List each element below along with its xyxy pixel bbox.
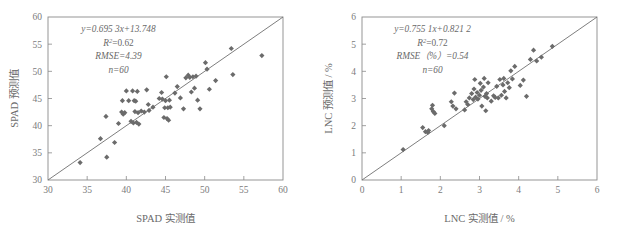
y-tick-label: 55 [33, 40, 43, 50]
data-point [401, 147, 406, 152]
data-point [508, 68, 513, 73]
x-tick-label: 1 [399, 185, 404, 195]
annotation-r-squared: R2=0.72 [416, 36, 448, 48]
y-tick-label: 3 [351, 94, 356, 104]
data-point [550, 44, 555, 49]
data-point [112, 140, 117, 145]
y-tick-label: 1 [351, 148, 356, 158]
data-point [104, 155, 109, 160]
data-point [430, 103, 435, 108]
x-tick-label: 4 [516, 185, 521, 195]
data-point [452, 90, 457, 95]
data-point [164, 74, 169, 79]
data-point [195, 98, 200, 103]
y-tick-label: 6 [351, 12, 356, 22]
data-point [504, 95, 509, 100]
data-point [98, 136, 103, 141]
data-point [486, 80, 491, 85]
data-point [420, 125, 425, 130]
data-point [524, 94, 529, 99]
data-point [178, 95, 183, 100]
data-point [507, 85, 512, 90]
data-point [197, 106, 202, 111]
data-point [150, 105, 155, 110]
data-point [472, 77, 477, 82]
data-point [116, 121, 121, 126]
data-point [512, 64, 517, 69]
x-tick-label: 55 [239, 185, 249, 195]
annotation-sample-size: n=60 [108, 65, 129, 75]
y-tick-label: 4 [351, 67, 356, 77]
annotation-rmse: RMSE=4.39 [94, 51, 142, 61]
data-point [78, 160, 83, 165]
figure-container: 3035404550556030354045505560y=0.695 3x+1… [0, 0, 629, 238]
data-point [124, 88, 129, 93]
annotation-equation: y=0.755 1x+0.821 2 [393, 24, 471, 34]
data-point [471, 86, 476, 91]
x-tick-label: 6 [595, 185, 600, 195]
plot-svg-spad: 3035404550556030354045505560y=0.695 3x+1… [0, 0, 315, 238]
data-point [469, 91, 474, 96]
data-point [135, 89, 140, 94]
data-point [482, 76, 487, 81]
data-point [528, 57, 533, 62]
y-tick-label: 50 [33, 67, 43, 77]
data-point [126, 98, 131, 103]
x-tick-label: 45 [161, 185, 171, 195]
x-tick-label: 30 [43, 185, 53, 195]
x-tick-label: 40 [122, 185, 132, 195]
y-axis-title: SPAD 预测值 [8, 68, 20, 128]
data-point [497, 77, 502, 82]
data-point [192, 86, 197, 91]
x-tick-label: 35 [82, 185, 92, 195]
y-tick-label: 0 [351, 175, 356, 185]
annotation-r-squared: R2=0.62 [102, 36, 134, 48]
x-tick-label: 2 [438, 185, 443, 195]
data-point [175, 84, 180, 89]
data-point [539, 55, 544, 60]
x-tick-label: 5 [555, 185, 560, 195]
data-point [207, 87, 212, 92]
data-point [259, 53, 264, 58]
data-point [449, 99, 454, 104]
annotation-sample-size: n=60 [422, 65, 443, 75]
data-point [518, 83, 523, 88]
data-point [478, 81, 483, 86]
scatter-panel-lnc: 01234560123456y=0.755 1x+0.821 2R2=0.72R… [314, 0, 629, 238]
data-point [144, 87, 149, 92]
data-point [505, 80, 510, 85]
data-point [531, 48, 536, 53]
y-axis-title: LNC 预测值 / % [322, 63, 334, 134]
data-point [189, 89, 194, 94]
data-point [159, 90, 164, 95]
x-axis-title: LNC 实测值 / % [444, 212, 515, 224]
x-tick-label: 60 [278, 185, 288, 195]
data-point [103, 114, 108, 119]
data-point [146, 102, 151, 107]
data-point [489, 99, 494, 104]
scatter-panel-spad: 3035404550556030354045505560y=0.695 3x+1… [0, 0, 315, 238]
y-tick-label: 2 [351, 121, 356, 131]
annotation-rmse: RMSE（%）=0.54 [395, 51, 468, 61]
data-point [521, 77, 526, 82]
data-point [203, 60, 208, 65]
y-tick-label: 35 [33, 148, 43, 158]
data-point [479, 104, 484, 109]
data-point [181, 106, 186, 111]
x-tick-label: 3 [477, 185, 482, 195]
plot-svg-lnc: 01234560123456y=0.755 1x+0.821 2R2=0.72R… [314, 0, 629, 238]
data-point [167, 98, 172, 103]
data-point [502, 89, 507, 94]
y-tick-label: 60 [33, 12, 43, 22]
data-point [229, 46, 234, 51]
data-point [130, 88, 135, 93]
data-point [230, 72, 235, 77]
y-tick-label: 30 [33, 175, 43, 185]
data-point [534, 58, 539, 63]
x-tick-label: 0 [360, 185, 365, 195]
data-point [120, 98, 125, 103]
y-tick-label: 5 [351, 40, 356, 50]
x-tick-label: 50 [200, 185, 210, 195]
data-point [483, 108, 488, 113]
x-axis-title: SPAD 实测值 [136, 212, 196, 224]
